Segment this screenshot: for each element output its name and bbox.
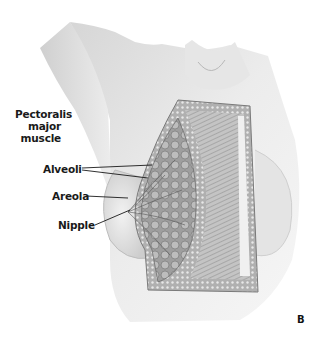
label-alveoli: Alveoli bbox=[43, 163, 82, 175]
label-pectoralis-line3: muscle bbox=[15, 132, 61, 144]
label-pectoralis-line2: major bbox=[15, 120, 61, 132]
label-nipple: Nipple bbox=[58, 219, 95, 231]
label-areola: Areola bbox=[52, 190, 89, 202]
label-pectoralis-line1: Pectoralis bbox=[15, 108, 61, 120]
panel-letter: B bbox=[297, 314, 305, 325]
label-pectoralis-major-muscle: Pectoralis major muscle bbox=[15, 108, 61, 144]
